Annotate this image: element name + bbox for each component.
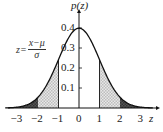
x-tick-label: 0 — [76, 113, 82, 124]
x-tick-label: −1 — [52, 113, 64, 124]
x-tick-label: −3 — [11, 113, 23, 124]
formula-denominator: σ — [34, 50, 39, 61]
x-axis-label: z — [149, 113, 153, 124]
y-tick-label: 0.4 — [61, 22, 75, 33]
x-tick-label: 1 — [97, 113, 103, 124]
y-tick-label: 0.2 — [61, 62, 75, 73]
y-tick-label: 0.1 — [61, 82, 75, 93]
x-tick-label: −2 — [31, 113, 43, 124]
formula-lhs: z= — [16, 44, 27, 55]
x-axis-arrow — [156, 106, 160, 110]
formula-numerator: x−μ — [28, 38, 46, 50]
formula-fraction: x−μ σ — [28, 38, 46, 60]
x-tick-label: 3 — [138, 113, 144, 124]
formula: z= x−μ σ — [16, 38, 46, 60]
y-tick-label: 0.3 — [61, 42, 75, 53]
x-tick-label: 2 — [117, 113, 123, 124]
y-axis-label: p(z) — [71, 0, 88, 11]
